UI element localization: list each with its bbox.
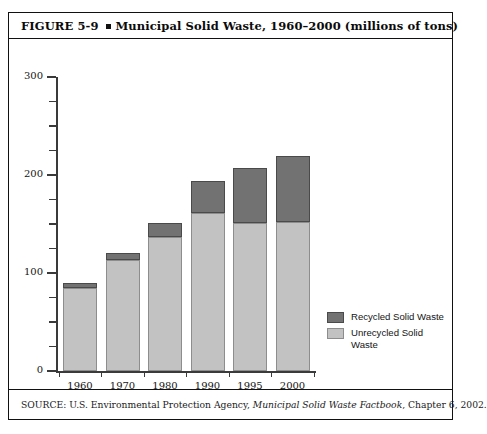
bar-segment-unrecycled [63,288,97,371]
source-title: Municipal Solid Waste Factbook [253,399,402,410]
y-axis-tick-label: 200 [9,168,43,179]
x-axis-tick [314,372,315,377]
bar-segment-recycled [63,283,97,288]
x-axis-tick [271,372,272,377]
x-axis-tick [59,372,60,377]
figure-source: SOURCE: U.S. Environmental Protection Ag… [21,399,487,410]
figure-title: Municipal Solid Waste, 1960–2000 (millio… [116,19,459,33]
x-axis-tick [229,372,230,377]
y-axis-major-tick [47,272,56,273]
y-axis-major-tick [47,370,56,371]
square-bullet-icon [106,24,111,29]
y-axis-major-tick [47,76,56,77]
y-axis-minor-tick [49,321,56,322]
bar-segment-unrecycled [233,223,267,371]
y-axis-minor-tick [49,125,56,126]
legend-label-recycled: Recycled Solid Waste [351,311,444,323]
x-axis-tick [144,372,145,377]
y-axis-tick-label: 300 [9,70,43,81]
source-prefix: SOURCE: U.S. Environmental Protection Ag… [21,399,253,410]
y-axis-tick-label: 0 [9,364,43,375]
bar-segment-recycled [106,253,140,260]
bar-segment-recycled [148,223,182,237]
bar-group [276,39,310,371]
bar-group [106,39,140,371]
figure-title-band: FIGURE 5-9Municipal Solid Waste, 1960–20… [9,13,452,39]
page-title: FIGURE 5-9Municipal Solid Waste, 1960–20… [21,19,458,33]
y-axis-tick-label: 100 [9,266,43,277]
source-suffix: , Chapter 6, 2002. [402,399,487,410]
y-axis-minor-tick [49,150,56,151]
bar-segment-recycled [276,156,310,222]
bar-segment-recycled [191,181,225,213]
y-axis-line [56,77,58,372]
y-axis-minor-tick [49,101,56,102]
figure-number: FIGURE 5-9 [21,19,99,33]
bar-group [63,39,97,371]
legend-swatch-recycled [327,312,344,323]
x-axis-tick [101,372,102,377]
legend-item-recycled: Recycled Solid Waste [327,311,451,323]
bar-segment-unrecycled [148,237,182,371]
y-axis-minor-tick [49,346,56,347]
legend-swatch-unrecycled [327,328,344,339]
bar-group [191,39,225,371]
x-axis-tick [186,372,187,377]
y-axis-major-tick [47,174,56,175]
y-axis-minor-tick [49,199,56,200]
figure-source-band: SOURCE: U.S. Environmental Protection Ag… [9,389,452,419]
bar-group [148,39,182,371]
bar-segment-unrecycled [106,260,140,371]
y-axis-minor-tick [49,248,56,249]
y-axis-minor-tick [49,223,56,224]
legend-label-unrecycled: Unrecycled Solid Waste [351,327,447,350]
bar-group [233,39,267,371]
y-axis-minor-tick [49,297,56,298]
bar-segment-unrecycled [276,222,310,371]
legend-item-unrecycled: Unrecycled Solid Waste [327,327,451,350]
figure-frame: FIGURE 5-9Municipal Solid Waste, 1960–20… [8,12,453,420]
bar-segment-recycled [233,168,267,223]
chart-legend: Recycled Solid Waste Unrecycled Solid Wa… [327,311,451,354]
chart-plot-area: 0100200300 196019701980199019952000 Recy… [9,39,452,389]
bar-segment-unrecycled [191,213,225,371]
